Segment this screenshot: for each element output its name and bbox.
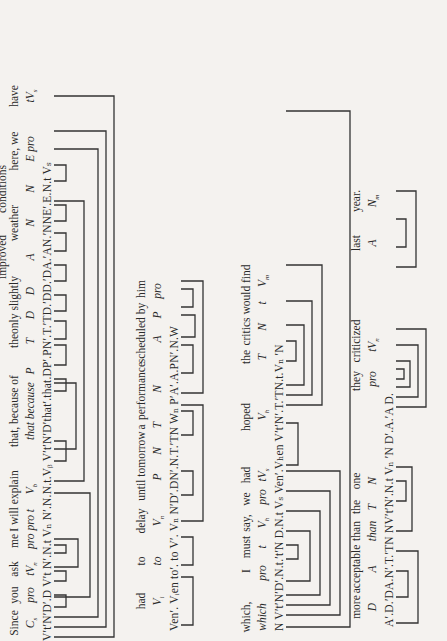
- word: we: [240, 492, 252, 505]
- word: year.: [350, 190, 362, 212]
- word: that, because of: [8, 375, 20, 447]
- word: conditions: [0, 165, 8, 213]
- word: to: [135, 557, 147, 566]
- word: him: [135, 280, 147, 298]
- line1-dependency-brackets: [54, 0, 174, 641]
- word: a: [135, 424, 147, 429]
- category-label: A: [366, 239, 378, 246]
- category-label: N: [256, 323, 268, 331]
- word: here, we: [8, 132, 20, 171]
- word: criticized: [350, 320, 362, 363]
- category-label: Vi: [151, 597, 166, 606]
- category-label: Vb: [24, 484, 39, 495]
- category-label: to: [151, 557, 163, 566]
- category-label: that because: [24, 382, 36, 440]
- category-label: pro: [24, 587, 36, 603]
- category-label: N: [151, 447, 163, 455]
- word: Since: [8, 610, 20, 636]
- word: I will explain: [8, 470, 20, 531]
- category-label: N: [24, 219, 36, 227]
- category-label: A: [366, 565, 378, 572]
- word: the: [240, 350, 252, 364]
- word: the: [8, 334, 20, 348]
- word: me: [8, 534, 20, 548]
- word: last: [350, 235, 362, 251]
- rotated-book-page: Since you ask me I will explain that, be…: [0, 0, 447, 641]
- category-label: tVs: [24, 90, 39, 103]
- word: critics would find: [240, 264, 252, 345]
- word: than: [350, 521, 362, 541]
- word: which,: [240, 602, 252, 633]
- word: I: [240, 569, 252, 573]
- word: one: [350, 473, 362, 490]
- word: had: [240, 467, 252, 484]
- word: acceptable: [350, 545, 362, 594]
- word: say,: [240, 514, 252, 531]
- word: you: [8, 586, 20, 603]
- category-label: than: [366, 521, 378, 541]
- line2-dependency-brackets: [181, 0, 241, 641]
- word: the: [350, 500, 362, 514]
- category-label: which: [256, 603, 268, 630]
- word: more: [350, 595, 362, 619]
- category-label: Vm: [256, 275, 271, 287]
- word: until tomorrow: [135, 431, 147, 500]
- category-label: P: [151, 473, 163, 480]
- category-label: D: [24, 287, 36, 295]
- line2-sequence: Ven′. Vᵢen to′. to V′. Vₙ N′D′.DN′.N.T.′…: [167, 326, 181, 631]
- category-label: Vh: [256, 518, 271, 529]
- category-label: Vn: [151, 516, 166, 527]
- category-label: t: [256, 545, 268, 548]
- word: weather: [8, 205, 20, 241]
- category-label: T: [24, 338, 36, 344]
- word: have: [8, 85, 20, 107]
- line4-dependency-brackets: [396, 0, 447, 641]
- category-label: t: [256, 301, 268, 304]
- category-label: N: [151, 385, 163, 393]
- category-label: P: [151, 311, 163, 318]
- word: they: [350, 371, 362, 391]
- category-label: D: [366, 603, 378, 611]
- category-label: T: [256, 354, 268, 360]
- category-label: tVn: [366, 338, 381, 352]
- category-label: Vh: [256, 410, 271, 421]
- category-label: N: [366, 477, 378, 485]
- category-label: pro pro t: [24, 509, 36, 549]
- category-label: T: [366, 504, 378, 510]
- category-label: D: [24, 311, 36, 319]
- category-label: Cs: [24, 618, 39, 628]
- category-label: E pro: [24, 136, 36, 161]
- word: only slightly: [8, 276, 20, 334]
- category-label: pro: [366, 371, 378, 387]
- category-label: N: [24, 185, 36, 193]
- word: scheduled by: [135, 303, 147, 363]
- line3-sequence: N V′t′N′D′.N.t.′t′N D.N.t Vₛ Ven′.Vₕen V…: [272, 344, 286, 631]
- category-label: P: [24, 367, 36, 374]
- word: performance: [135, 362, 147, 420]
- category-label: pro: [256, 489, 268, 505]
- category-label: pro: [256, 565, 268, 581]
- line4-sequence: A′.D.′DA.N′.T.′TN NV′t′N′.N.t Vₙ ′N D′.A…: [382, 393, 396, 627]
- word: hoped: [240, 403, 252, 431]
- category-label: tVn: [24, 562, 39, 576]
- line1-sequence: V′t′N′D′.D V′t N′.N.t Vₙ N′.N.N.t.Vᵦ V′t…: [40, 162, 54, 641]
- category-label: pro: [151, 283, 163, 299]
- category-label: A: [24, 253, 36, 260]
- word: must: [240, 536, 252, 558]
- word: had: [135, 593, 147, 610]
- word: improved: [0, 235, 8, 279]
- category-label: T: [151, 422, 163, 428]
- category-label: Nm: [366, 195, 381, 208]
- word: ask: [8, 561, 20, 576]
- word: delay: [135, 509, 147, 534]
- line3-dependency-brackets: [286, 0, 386, 641]
- category-label: A: [151, 335, 163, 342]
- category-label: tVs: [256, 469, 271, 482]
